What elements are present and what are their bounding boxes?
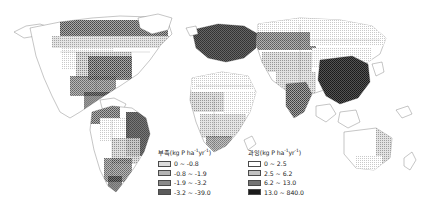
legend-swatch bbox=[158, 161, 171, 167]
legend-deficit-title: 부족(kg P ha-1yr-1) bbox=[158, 149, 211, 157]
legend-swatch bbox=[248, 170, 261, 176]
legend-item[interactable]: -0.8 ~ -1.9 bbox=[158, 169, 211, 178]
legend-item[interactable]: -1.9 ~ -3.2 bbox=[158, 178, 211, 187]
legend-item-label: -3.2 ~ -39.0 bbox=[174, 189, 211, 196]
legend-surplus: 과잉(kg P ha-1yr-1) 0 ~ 2.5 2.5 ~ 6.2 6.2 … bbox=[248, 149, 304, 197]
legend-surplus-unit-prefix: (kg P ha bbox=[260, 149, 285, 156]
legend-item-label: -0.8 ~ -1.9 bbox=[174, 170, 207, 177]
legend-item[interactable]: 0 ~ -0.8 bbox=[158, 159, 211, 168]
legend-deficit-rows: 0 ~ -0.8 -0.8 ~ -1.9 -1.9 ~ -3.2 -3.2 ~ … bbox=[158, 159, 211, 197]
legend-item-label: -1.9 ~ -3.2 bbox=[174, 179, 207, 186]
legend-item-label: 0 ~ -0.8 bbox=[174, 160, 199, 167]
legend-surplus-title: 과잉(kg P ha-1yr-1) bbox=[248, 149, 304, 157]
legend-surplus-title-korean: 과잉 bbox=[248, 149, 260, 156]
world-map bbox=[0, 0, 428, 214]
legend-swatch bbox=[158, 180, 171, 186]
legend-surplus-unit-suffix: ) bbox=[299, 149, 301, 156]
legend-item[interactable]: -3.2 ~ -39.0 bbox=[158, 188, 211, 197]
legend-item[interactable]: 2.5 ~ 6.2 bbox=[248, 169, 304, 178]
legend-item-label: 2.5 ~ 6.2 bbox=[264, 170, 292, 177]
legend-item[interactable]: 0 ~ 2.5 bbox=[248, 159, 304, 168]
legend-item[interactable]: 6.2 ~ 13.0 bbox=[248, 178, 304, 187]
legend-deficit-title-korean: 부족 bbox=[158, 149, 170, 156]
legend-item-label: 13.0 ~ 840.0 bbox=[264, 189, 304, 196]
legend-swatch bbox=[158, 189, 171, 195]
legend-item-label: 0 ~ 2.5 bbox=[264, 160, 287, 167]
legend-surplus-rows: 0 ~ 2.5 2.5 ~ 6.2 6.2 ~ 13.0 13.0 ~ 840.… bbox=[248, 159, 304, 197]
legend-deficit-unit-suffix: ) bbox=[209, 149, 211, 156]
legend-swatch bbox=[248, 161, 261, 167]
legend-deficit-unit-prefix: (kg P ha bbox=[170, 149, 195, 156]
legend-swatch bbox=[248, 180, 261, 186]
legend-deficit: 부족(kg P ha-1yr-1) 0 ~ -0.8 -0.8 ~ -1.9 -… bbox=[158, 149, 211, 197]
legend-swatch bbox=[248, 189, 261, 195]
legend-item-label: 6.2 ~ 13.0 bbox=[264, 179, 296, 186]
legend-item[interactable]: 13.0 ~ 840.0 bbox=[248, 188, 304, 197]
phosphorus-balance-map-figure: 부족(kg P ha-1yr-1) 0 ~ -0.8 -0.8 ~ -1.9 -… bbox=[0, 0, 428, 214]
legend-swatch bbox=[158, 170, 171, 176]
